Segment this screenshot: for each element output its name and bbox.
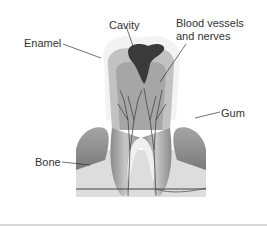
- tooth-diagram: Cavity Blood vessels and nerves Enamel G…: [0, 0, 267, 227]
- label-blood-vessels-line2: and nerves: [176, 30, 230, 42]
- label-enamel: Enamel: [24, 37, 61, 49]
- label-bone: Bone: [35, 156, 61, 168]
- label-cavity: Cavity: [109, 19, 140, 31]
- label-gum: Gum: [221, 107, 245, 119]
- label-blood-vessels-line1: Blood vessels: [176, 17, 244, 29]
- bottom-divider: [0, 224, 267, 226]
